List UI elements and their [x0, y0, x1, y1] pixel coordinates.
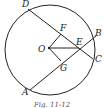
label-d: D [21, 0, 29, 9]
label-e: E [75, 37, 83, 47]
geometry-diagram: D F E B O C G A Fig. 11-12 [0, 0, 104, 108]
label-o: O [38, 44, 46, 54]
segment-of [49, 34, 61, 48]
label-f: F [59, 23, 67, 33]
label-a: A [21, 87, 29, 97]
center-point [48, 47, 50, 49]
label-g: G [60, 63, 67, 73]
segment-og [49, 48, 61, 61]
label-b: B [94, 28, 102, 38]
figure-caption: Fig. 11-12 [33, 101, 71, 108]
label-c: C [95, 54, 102, 64]
